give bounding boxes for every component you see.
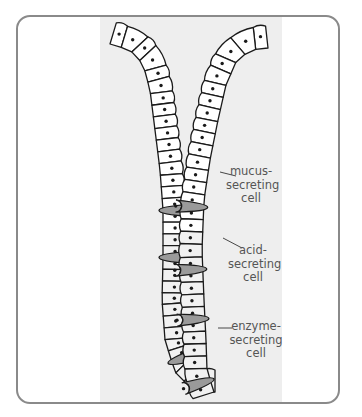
cell-nucleus (192, 185, 195, 188)
cell-nucleus (171, 178, 174, 181)
cell-nucleus (193, 348, 196, 351)
label-line: enzyme- (228, 320, 284, 334)
label-line: secreting (228, 334, 284, 348)
cell-nucleus (206, 111, 209, 114)
label-line: secreting (226, 179, 276, 193)
cell-nucleus (169, 155, 172, 158)
cell-nucleus (220, 62, 223, 65)
cell-nucleus (131, 38, 134, 41)
cell-nucleus (156, 72, 159, 75)
label-enzyme-secreting-cell: enzyme- secreting cell (228, 320, 284, 361)
cell-nucleus (194, 173, 197, 176)
cell-nucleus (166, 131, 169, 134)
cell-nucleus (164, 120, 167, 123)
cell-nucleus (189, 224, 192, 227)
label-line: mucus- (226, 165, 276, 179)
label-line: secreting (228, 258, 278, 272)
cell-nucleus (259, 35, 262, 38)
cell-nucleus (159, 84, 162, 87)
cell-nucleus (203, 124, 206, 127)
cell-nucleus (200, 136, 203, 139)
cell-nucleus (173, 226, 176, 229)
cell-nucleus (229, 50, 232, 53)
cell-nucleus (161, 96, 164, 99)
cell-nucleus (170, 166, 173, 169)
cell-nucleus (151, 58, 154, 61)
label-mucus-secreting-cell: mucus- secreting cell (226, 165, 276, 206)
cell-nucleus (190, 299, 193, 302)
cell-nucleus (173, 238, 176, 241)
cell-nucleus (174, 204, 177, 207)
cell-nucleus (167, 143, 170, 146)
cell-nucleus (189, 236, 192, 239)
cell-nucleus (172, 190, 175, 193)
gastric-gland-illustration (0, 0, 362, 417)
cell-nucleus (188, 249, 191, 252)
cell-nucleus (190, 287, 193, 290)
cell-nucleus (193, 361, 196, 364)
cell-nucleus (208, 99, 211, 102)
cell-nucleus (215, 74, 218, 77)
cell-nucleus (173, 297, 176, 300)
cell-nucleus (173, 285, 176, 288)
cell-nucleus (192, 336, 195, 339)
cell-nucleus (244, 40, 247, 43)
cell-nucleus (143, 46, 146, 49)
cell-nucleus (173, 308, 176, 311)
cell-nucleus (182, 387, 185, 390)
label-acid-secreting-cell: acid- secreting cell (228, 244, 278, 285)
cell-nucleus (173, 269, 176, 272)
cell-nucleus (175, 318, 178, 321)
label-line: acid- (228, 244, 278, 258)
cell-nucleus (163, 108, 166, 111)
label-line: cell (228, 347, 284, 361)
label-line: cell (228, 271, 278, 285)
cell-nucleus (191, 198, 194, 201)
cell-nucleus (211, 87, 214, 90)
cell-nucleus (117, 32, 120, 35)
cell-nucleus (196, 160, 199, 163)
cell-nucleus (177, 341, 180, 344)
label-line: cell (226, 192, 276, 206)
cell-nucleus (175, 331, 178, 334)
cell-nucleus (195, 375, 198, 378)
cell-nucleus (198, 148, 201, 151)
